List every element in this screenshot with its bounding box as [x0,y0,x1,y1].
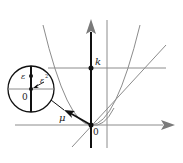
label-mu: μ [59,112,66,123]
k-point [89,66,94,71]
epsilon-point [29,74,33,78]
diagram-canvas: k 0 μ ε ε 2 0 [0,0,183,163]
mu-vector [64,110,91,125]
inset-origin-point [29,87,33,91]
inset-connector-line [51,100,64,110]
label-epsilon-squared: ε [40,76,44,85]
x-axis-arrow-icon [161,120,175,130]
label-epsilon: ε [21,72,25,81]
label-inset-origin: 0 [22,92,28,102]
label-origin: 0 [93,127,99,137]
diagonal-line [72,45,166,147]
label-k: k [95,56,101,67]
label-epsilon-squared-exponent: 2 [45,73,48,79]
y-axis-arrow-icon [86,19,96,34]
